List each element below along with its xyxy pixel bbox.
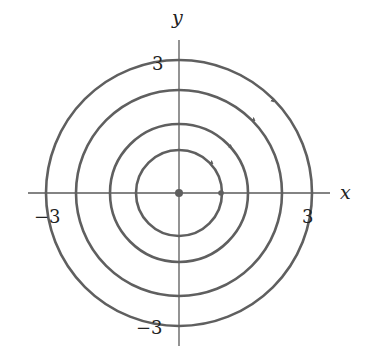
initial-point: [218, 190, 224, 196]
tick-y-pos: 3: [152, 53, 163, 74]
direction-arrows: [200, 89, 273, 163]
tick-y-neg: −3: [136, 317, 163, 338]
x-axis-label: x: [340, 181, 351, 203]
tick-x-neg: −3: [34, 206, 61, 227]
arrow-icon: [260, 89, 273, 101]
arrow-icon: [241, 108, 254, 120]
origin-point: [175, 189, 183, 197]
tick-x-pos: 3: [302, 206, 313, 227]
phase-portrait: y x 3 −3 −3 3: [0, 0, 367, 359]
y-axis-label: y: [171, 6, 183, 28]
